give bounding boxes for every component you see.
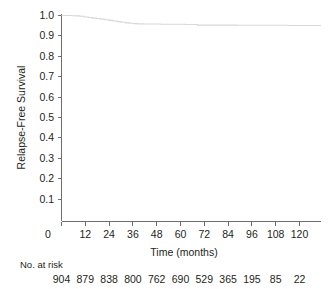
risk-value: 529	[196, 273, 214, 285]
y-tick-label: 0.8	[39, 50, 54, 62]
x-tick-label: 96	[246, 228, 258, 240]
x-tick-label: 72	[198, 228, 210, 240]
x-tick-label: 60	[175, 228, 187, 240]
survival-curve-line	[62, 16, 322, 26]
x-tick-label: 84	[222, 228, 234, 240]
y-tick-label: 0.1	[39, 193, 54, 205]
y-tick-label: 0.2	[39, 172, 54, 184]
risk-value: 365	[219, 273, 237, 285]
risk-value: 22	[294, 273, 306, 285]
relapse-free-survival-chart: 1.0 0.9 0.8 0.7 0.6 0.5 0.4 0.3 0.2 0.1	[0, 0, 334, 289]
y-tick-label: 0.6	[39, 91, 54, 103]
y-axis-ticks	[58, 16, 62, 200]
risk-value: 904	[53, 273, 71, 285]
y-tick-label: 0.9	[39, 29, 54, 41]
risk-value: 85	[270, 273, 282, 285]
x-axis-ticks	[62, 222, 300, 226]
y-tick-label: 0.4	[39, 131, 54, 143]
x-tick-label: 36	[127, 228, 139, 240]
risk-value: 762	[148, 273, 166, 285]
x-tick-label: 24	[103, 228, 115, 240]
y-axis-title: Relapse-Free Survival	[15, 66, 27, 170]
x-tick-label: 120	[291, 228, 309, 240]
y-axis-tick-labels: 1.0 0.9 0.8 0.7 0.6 0.5 0.4 0.3 0.2 0.1	[39, 9, 54, 205]
x-tick-label: 108	[267, 228, 285, 240]
y-tick-label: 0.5	[39, 111, 54, 123]
risk-value: 800	[124, 273, 142, 285]
x-axis-tick-labels: 0 12 24 36 48 60 72 84 96 108 120	[45, 228, 308, 240]
chart-canvas: 1.0 0.9 0.8 0.7 0.6 0.5 0.4 0.3 0.2 0.1	[0, 0, 334, 289]
x-axis-title: Time (months)	[150, 246, 217, 258]
risk-table-values: 904 879 838 800 762 690 529 365 195 85 2…	[53, 273, 306, 285]
risk-value: 879	[77, 273, 95, 285]
x-tick-label: 12	[79, 228, 91, 240]
y-tick-label: 0.3	[39, 152, 54, 164]
x-tick-label: 48	[151, 228, 163, 240]
risk-value: 690	[172, 273, 190, 285]
risk-value: 195	[243, 273, 261, 285]
y-tick-label: 0.7	[39, 70, 54, 82]
y-tick-label: 1.0	[39, 9, 54, 21]
risk-table-heading: No. at risk	[20, 259, 63, 270]
x-tick-label: 0	[45, 228, 51, 240]
risk-value: 838	[100, 273, 118, 285]
